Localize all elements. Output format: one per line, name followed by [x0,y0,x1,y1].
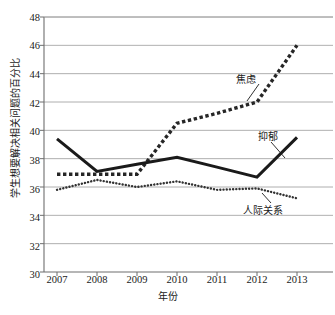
series-layer [57,45,297,198]
series-line-焦虑 [57,45,297,174]
series-label-depression: 抑郁 [258,131,278,142]
series-label-anxiety: 焦虑 [236,74,256,85]
series-line-抑郁 [57,137,297,177]
line-chart: 学生想要解决相关问题的百分比 48 46 44 42 40 38 36 34 3… [0,0,335,315]
plot-area [0,0,335,315]
series-label-relation: 人际关系 [243,205,283,216]
y-tick-marks [40,17,44,272]
series-line-人际关系 [57,180,297,198]
x-tick-marks [57,272,297,276]
